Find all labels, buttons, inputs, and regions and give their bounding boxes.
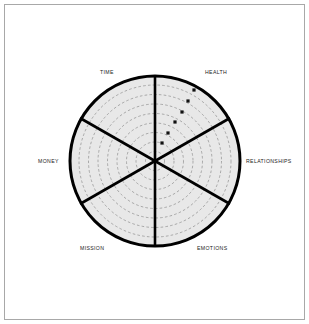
wheel-svg: TIMEHEALTHMONEYRELATIONSHIPSMISSIONEMOTI… bbox=[0, 0, 309, 324]
category-label-money: MONEY bbox=[38, 158, 59, 164]
data-point-marker[interactable] bbox=[186, 99, 189, 102]
wheel-of-life-chart: TIMEHEALTHMONEYRELATIONSHIPSMISSIONEMOTI… bbox=[0, 0, 309, 324]
category-label-time: TIME bbox=[100, 69, 114, 75]
data-point-marker[interactable] bbox=[173, 120, 176, 123]
category-label-relationships: RELATIONSHIPS bbox=[246, 158, 292, 164]
data-point-marker[interactable] bbox=[180, 110, 183, 113]
category-label-mission: MISSION bbox=[80, 245, 104, 251]
category-label-health: HEALTH bbox=[205, 69, 227, 75]
page-root: TIMEHEALTHMONEYRELATIONSHIPSMISSIONEMOTI… bbox=[0, 0, 309, 324]
data-point-marker[interactable] bbox=[160, 141, 163, 144]
category-label-emotions: EMOTIONS bbox=[197, 245, 228, 251]
data-point-marker[interactable] bbox=[166, 131, 169, 134]
data-point-marker[interactable] bbox=[192, 88, 195, 91]
